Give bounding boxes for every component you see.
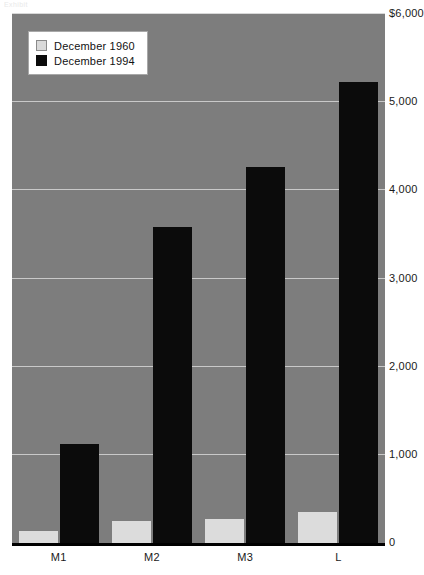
legend-item: December 1994	[36, 53, 135, 68]
bar-m2-1994	[153, 227, 192, 543]
x-tick-m3: M3	[237, 551, 253, 563]
y-tick-6000: $6,000	[389, 7, 424, 19]
y-tick-0: 0	[389, 536, 395, 548]
plot-area	[12, 14, 385, 543]
legend-label-december-1994: December 1994	[54, 55, 135, 67]
legend-item: December 1960	[36, 38, 135, 53]
bar-l-1960	[298, 512, 337, 543]
bar-m1-1994	[60, 444, 99, 543]
y-tick-3000: 3,000	[389, 272, 418, 284]
clipped-caption: Exhibit	[4, 0, 84, 9]
x-tick-m1: M1	[51, 551, 67, 563]
chart-figure: Exhibit 01,0002,0003,0004,0005,000$6,000…	[0, 0, 424, 575]
gridline	[12, 101, 385, 102]
gridline	[12, 13, 385, 14]
x-axis-tick-labels: M1M2M3L	[12, 551, 385, 571]
gridline	[12, 278, 385, 279]
x-tick-l: L	[335, 551, 341, 563]
bar-m2-1960	[112, 521, 151, 543]
bar-m1-1960	[19, 531, 58, 543]
x-axis-line	[12, 543, 385, 546]
bar-l-1994	[339, 82, 378, 543]
y-axis-tick-labels: 01,0002,0003,0004,0005,000$6,000	[389, 0, 424, 575]
legend-swatch-december-1960	[36, 40, 47, 51]
y-tick-5000: 5,000	[389, 95, 418, 107]
y-tick-4000: 4,000	[389, 183, 418, 195]
legend-label-december-1960: December 1960	[54, 40, 135, 52]
chart-legend: December 1960 December 1994	[28, 31, 148, 75]
y-tick-2000: 2,000	[389, 360, 418, 372]
bar-m3-1994	[246, 167, 285, 543]
legend-swatch-december-1994	[36, 55, 47, 66]
gridline	[12, 366, 385, 367]
bar-m3-1960	[205, 519, 244, 543]
gridline	[12, 189, 385, 190]
x-tick-m2: M2	[144, 551, 160, 563]
y-tick-1000: 1,000	[389, 448, 418, 460]
